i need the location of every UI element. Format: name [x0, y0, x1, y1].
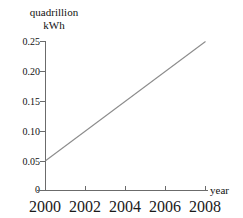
data-series-line — [46, 42, 206, 161]
line-chart: quadrillion kWh year 0.25 0.20 0.15 0.10… — [0, 0, 243, 218]
x-axis — [37, 186, 208, 191]
plot-area — [0, 0, 243, 218]
y-axis — [40, 41, 46, 190]
